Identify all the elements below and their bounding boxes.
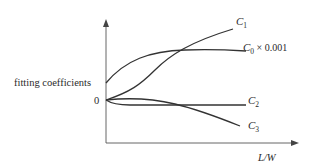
zero-tick-label: 0 <box>94 95 99 106</box>
y-axis-label: fitting coefficients <box>14 77 91 88</box>
x-axis-label: L/W <box>257 152 277 163</box>
curve-c3 <box>106 99 240 126</box>
c3-label: C3 <box>248 119 259 134</box>
x-axis-arrow-icon <box>291 140 299 146</box>
c0-label: C0 × 0.001 <box>243 41 287 56</box>
c2-label: C2 <box>248 94 259 109</box>
c1-label: C1 <box>236 15 247 30</box>
y-axis-arrow-icon <box>103 19 109 27</box>
coefficient-chart: fitting coefficients 0 L/W C1 C0 × 0.001… <box>0 0 318 166</box>
curve-c0 <box>106 50 246 83</box>
curve-c1 <box>106 29 233 100</box>
